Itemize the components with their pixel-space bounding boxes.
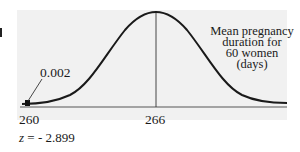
axis-description: Mean pregnancy duration for 60 women (da…	[197, 26, 300, 70]
tail-area-marker	[25, 100, 30, 106]
tick-label-260: 260	[19, 113, 39, 127]
note-line-4: (days)	[197, 59, 300, 70]
tick-label-266: 266	[145, 113, 165, 127]
tail-area-label: 0.002	[40, 66, 70, 80]
tail-leader-line	[28, 79, 42, 101]
z-score-label: z = - 2.899	[19, 131, 75, 144]
